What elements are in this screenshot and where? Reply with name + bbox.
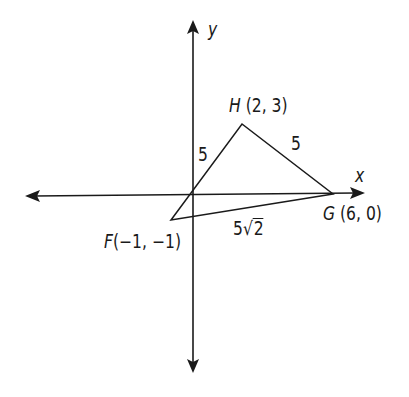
side-hg-length-label: 5 <box>291 134 301 153</box>
x-axis <box>34 193 356 196</box>
triangle-fhg <box>171 124 333 220</box>
side-fg-coefficient: 5 <box>233 217 243 239</box>
sqrt-icon: √2 <box>243 218 264 238</box>
side-fh-length-label: 5 <box>198 145 208 164</box>
point-h-label: H (2, 3) <box>229 96 288 115</box>
point-f-letter: F <box>104 230 113 252</box>
point-g-coords: (6, 0) <box>340 202 382 224</box>
side-fg-radicand: 2 <box>253 218 264 238</box>
x-axis-label: x <box>355 166 364 185</box>
point-g-letter: G <box>323 202 335 224</box>
point-h-coords: (2, 3) <box>246 94 288 116</box>
radical-sign: √ <box>243 217 253 239</box>
point-f-label: F(−1, −1) <box>104 232 181 251</box>
point-h-letter: H <box>229 94 241 116</box>
point-f-coords: (−1, −1) <box>113 230 181 252</box>
coordinate-plane <box>0 0 409 397</box>
y-axis-label: y <box>208 20 217 39</box>
side-fg-length-label: 5√2 <box>233 218 264 238</box>
point-g-label: G (6, 0) <box>323 204 382 223</box>
